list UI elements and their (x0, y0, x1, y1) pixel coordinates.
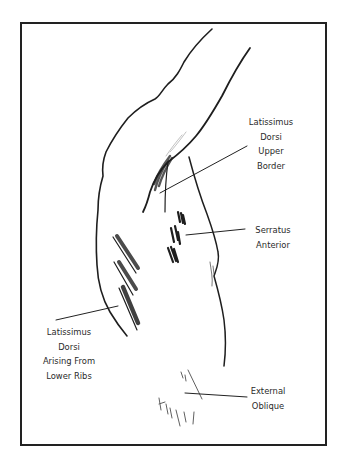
label-line: Anterior (248, 238, 298, 253)
leader-oblique (185, 393, 247, 397)
armpit-hatch (166, 132, 186, 156)
chest-side-contour (189, 157, 226, 366)
label-line: Latissimus (246, 115, 296, 130)
serratus-anterior-marks (168, 212, 185, 262)
label-line: Arising From (38, 354, 100, 369)
label-line: Serratus (248, 223, 298, 238)
label-line: Dorsi (38, 340, 100, 355)
label-serratus-anterior: Serratus Anterior (248, 223, 298, 252)
external-oblique-marks (159, 370, 202, 426)
label-line: Oblique (248, 399, 288, 414)
label-line: Border (246, 159, 296, 174)
label-external-oblique: External Oblique (248, 384, 288, 413)
leader-upper-border (160, 146, 247, 193)
label-line: External (248, 384, 288, 399)
latissimus-lower-bands (113, 236, 138, 330)
label-latissimus-dorsi-lower-ribs: Latissimus Dorsi Arising From Lower Ribs (38, 325, 100, 383)
label-line: Latissimus (38, 325, 100, 340)
arm-inner-contour (143, 48, 250, 212)
label-latissimus-dorsi-upper-border: Latissimus Dorsi Upper Border (246, 115, 296, 173)
leader-serratus (186, 229, 245, 235)
label-line: Dorsi (246, 130, 296, 145)
label-line: Upper (246, 144, 296, 159)
label-line: Lower Ribs (38, 369, 100, 384)
chest-side-hatch (210, 262, 214, 286)
leader-lower-ribs (56, 306, 118, 320)
armpit-shading (154, 156, 172, 190)
